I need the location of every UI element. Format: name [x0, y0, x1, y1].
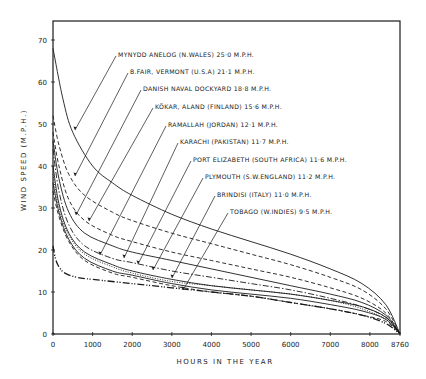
curve-6: [53, 174, 400, 334]
annotation-label: TOBAGO (W.INDIES) 9·5 M.P.H.: [229, 208, 332, 215]
annotation-label: B.FAIR, VERMONT (U.S.A) 21·1 M.P.H.: [130, 68, 255, 75]
annotation-label: RAMALLAH (JORDAN) 12·1 M.P.H.: [168, 121, 278, 129]
curve-9: [53, 246, 400, 334]
leader-line: [75, 73, 128, 176]
y-tick-label: 0: [43, 331, 47, 339]
x-tick-label: 8000: [361, 341, 379, 349]
x-tick-label: 7000: [321, 341, 339, 349]
annotation-label: KÖKAR, ALAND (FINLAND) 15·6 M.P.H.: [155, 103, 282, 110]
leader-line: [124, 143, 178, 258]
annotation-label: BRINDISI (ITALY) 11·0 M.P.H.: [217, 191, 312, 198]
leader-line: [100, 126, 166, 255]
y-axis-title: WIND SPEED (M.P.H.): [20, 109, 28, 211]
x-tick-label: 6000: [282, 341, 300, 349]
leader-line: [153, 178, 203, 270]
annotation-label: MYNYDD ANELOG (N.WALES) 25·0 M.P.H.: [118, 51, 254, 58]
x-tick-label: 5000: [242, 341, 260, 349]
curve-1: [53, 116, 400, 334]
x-axis-title: HOURS IN THE YEAR: [177, 358, 274, 366]
leader-line: [76, 90, 141, 215]
annotation-label: KARACHI (PAKISTAN) 11·7 M.P.H.: [180, 138, 289, 145]
y-tick-label: 50: [38, 121, 47, 129]
leader-line: [172, 196, 215, 278]
x-tick-label: 8760: [391, 341, 409, 349]
y-tick-label: 20: [38, 247, 47, 255]
y-tick-label: 70: [38, 37, 47, 45]
annotation-label: PLYMOUTH (S.W.ENGLAND) 11·2 M.P.H.: [205, 173, 335, 180]
leader-line: [89, 108, 153, 221]
wind-speed-duration-chart: MYNYDD ANELOG (N.WALES) 25·0 M.P.H.B.FAI…: [0, 0, 426, 379]
y-tick-label: 10: [38, 289, 47, 297]
y-tick-label: 40: [38, 163, 47, 171]
annotation-label: PORT ELIZABETH (SOUTH AFRICA) 11·6 M.P.H…: [193, 156, 347, 163]
y-tick-label: 60: [38, 79, 47, 87]
annotation-labels: MYNYDD ANELOG (N.WALES) 25·0 M.P.H.B.FAI…: [118, 51, 347, 215]
leader-line: [75, 56, 116, 130]
x-tick-label: 2000: [123, 341, 141, 349]
x-tick-label: 0: [51, 341, 55, 349]
x-tick-label: 4000: [203, 341, 221, 349]
y-tick-label: 30: [38, 205, 47, 213]
annotation-label: DANISH NAVAL DOCKYARD 18·8 M.P.H.: [143, 85, 271, 92]
x-tick-label: 3000: [163, 341, 181, 349]
x-tick-label: 1000: [84, 341, 102, 349]
